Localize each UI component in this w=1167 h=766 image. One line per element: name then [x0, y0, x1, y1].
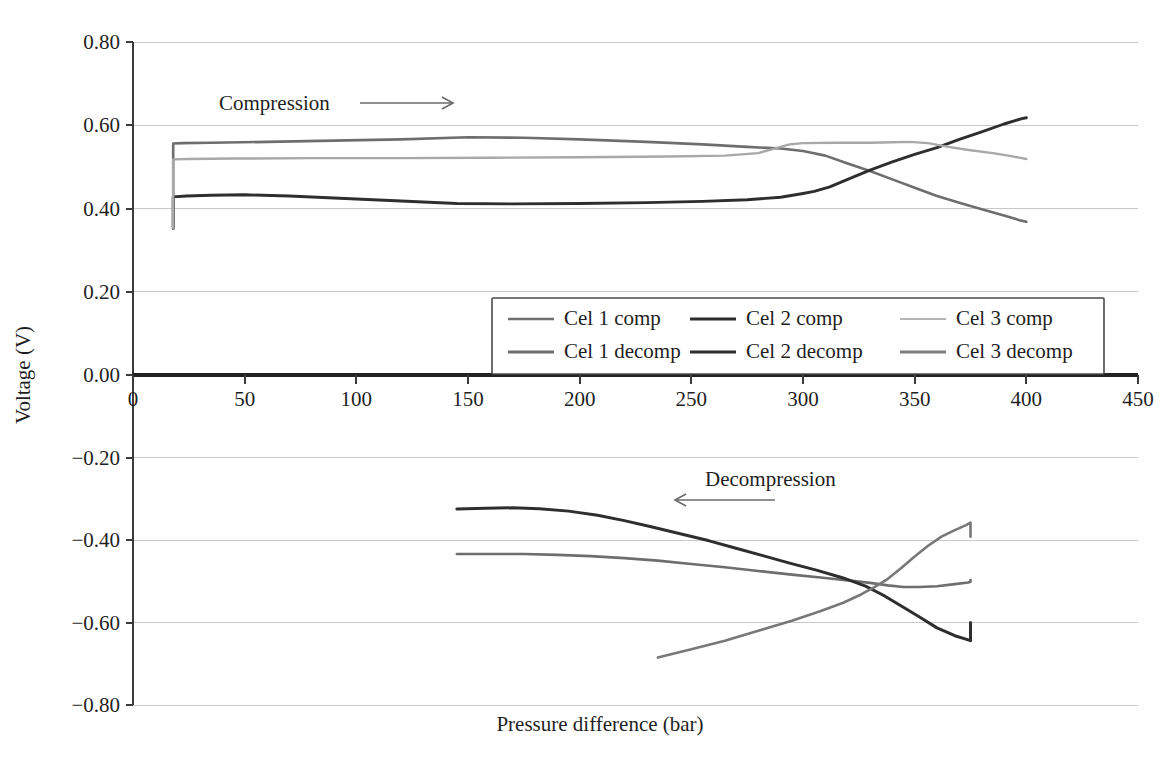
x-tick-label: 0: [128, 387, 139, 411]
decompression-arrow-icon: [675, 494, 775, 506]
y-tick-group: 0.800.600.400.200.00−0.20−0.40−0.60−0.80: [71, 30, 133, 717]
x-tick-label: 400: [1011, 387, 1043, 411]
voltage-pressure-plot: 0.800.600.400.200.00−0.20−0.40−0.60−0.80…: [0, 0, 1167, 766]
legend-label: Cel 1 decomp: [564, 339, 681, 363]
y-tick-label: 0.80: [83, 30, 120, 54]
chart-container: 0.800.600.400.200.00−0.20−0.40−0.60−0.80…: [0, 0, 1167, 766]
y-axis-title: Voltage (V): [11, 326, 35, 424]
y-tick-label: −0.80: [71, 693, 120, 717]
x-tick-group: 050100150200250300350400450: [128, 375, 1154, 411]
legend-label: Cel 2 decomp: [746, 339, 863, 363]
x-axis-title: Pressure difference (bar): [496, 712, 703, 736]
x-tick-label: 250: [676, 387, 708, 411]
series-cel-3-comp: [173, 142, 1026, 229]
y-tick-label: −0.40: [71, 528, 120, 552]
y-tick-label: 0.00: [83, 363, 120, 387]
y-tick-label: 0.20: [83, 280, 120, 304]
legend: Cel 1 compCel 2 compCel 3 compCel 1 deco…: [492, 298, 1104, 374]
y-tick-label: 0.40: [83, 197, 120, 221]
legend-label: Cel 1 comp: [564, 306, 661, 330]
series-cel-1-comp: [173, 137, 1026, 228]
compression-label: Compression: [219, 91, 330, 115]
decompression-label: Decompression: [705, 467, 836, 491]
series-cel-1-decomp: [457, 554, 971, 587]
legend-label: Cel 3 comp: [956, 306, 1053, 330]
x-tick-label: 50: [234, 387, 255, 411]
x-tick-label: 350: [899, 387, 931, 411]
x-tick-label: 300: [787, 387, 819, 411]
y-tick-label: 0.60: [83, 113, 120, 137]
series-cel-3-decomp: [658, 523, 971, 658]
x-tick-label: 100: [341, 387, 373, 411]
legend-label: Cel 2 comp: [746, 306, 843, 330]
legend-label: Cel 3 decomp: [956, 339, 1073, 363]
y-tick-label: −0.20: [71, 446, 120, 470]
series-cel-2-comp: [173, 118, 1026, 229]
x-tick-label: 200: [564, 387, 596, 411]
y-tick-label: −0.60: [71, 611, 120, 635]
compression-arrow-icon: [360, 97, 453, 109]
x-tick-label: 150: [452, 387, 484, 411]
x-tick-label: 450: [1122, 387, 1154, 411]
